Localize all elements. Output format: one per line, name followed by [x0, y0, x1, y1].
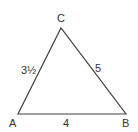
vertex-label-b: B [122, 117, 129, 129]
vertex-label-a: A [9, 117, 17, 129]
side-label-ab: 4 [63, 117, 69, 129]
vertex-label-c: C [57, 12, 65, 24]
side-label-bc: 5 [95, 62, 101, 74]
triangle-diagram: C A B 4 5 3½ [0, 0, 138, 132]
side-label-ac: 3½ [21, 64, 36, 76]
